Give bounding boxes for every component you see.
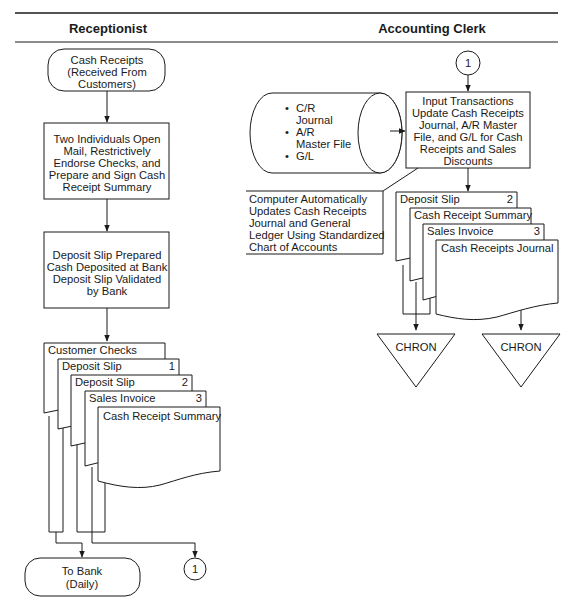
svg-text:Sales Invoice: Sales Invoice [89, 392, 156, 404]
end-terminator-to-bank: To Bank (Daily) [25, 558, 140, 596]
offpage-connector-out: 1 [184, 558, 206, 580]
svg-text:Deposit Slip: Deposit Slip [400, 193, 460, 205]
svg-text:Prepare and Sign Cash: Prepare and Sign Cash [49, 169, 165, 181]
process-deposit: Deposit Slip Prepared Cash Deposited at … [44, 232, 169, 308]
flowchart-canvas: Receptionist Accounting Clerk Cash Recei… [0, 0, 574, 609]
svg-text:Deposit Slip: Deposit Slip [75, 376, 135, 388]
svg-text:Master File: Master File [296, 138, 351, 150]
svg-text:1: 1 [192, 563, 198, 575]
lane-title-receptionist: Receptionist [69, 21, 148, 36]
svg-text:Computer Automatically: Computer Automatically [249, 193, 368, 205]
process-open-mail: Two Individuals Open Mail, Restrictively… [44, 123, 169, 199]
svg-text:Two Individuals Open: Two Individuals Open [54, 133, 161, 145]
magnetic-disk-files: • C/R Journal • A/R Master File • G/L [250, 93, 402, 173]
svg-text:Discounts: Discounts [443, 155, 493, 167]
bullet: • [285, 102, 289, 114]
svg-text:2: 2 [507, 193, 513, 205]
offpage-connector-in: 1 [456, 51, 480, 75]
svg-text:Journal and General: Journal and General [249, 217, 350, 229]
start-terminator: Cash Receipts (Received From Customers) [48, 49, 165, 91]
svg-text:CHRON: CHRON [395, 341, 436, 353]
chron-file-2: CHRON [482, 334, 560, 387]
svg-text:1: 1 [465, 57, 471, 69]
svg-text:File, and G/L for Cash: File, and G/L for Cash [413, 131, 522, 143]
accounting-document-stack: Deposit Slip 2 Cash Receipt Summary Sale… [396, 192, 558, 320]
svg-text:Customers): Customers) [78, 78, 136, 90]
document-cash-receipt-summary: Cash Receipt Summary [98, 407, 222, 488]
svg-text:A/R: A/R [296, 126, 315, 138]
receptionist-document-stack: Customer Checks Deposit Slip 1 Deposit S… [44, 343, 222, 488]
svg-text:Cash Receipt Summary: Cash Receipt Summary [103, 410, 222, 422]
svg-text:Deposit Slip Prepared: Deposit Slip Prepared [53, 249, 162, 261]
svg-text:Customer Checks: Customer Checks [48, 344, 137, 356]
document-cash-receipts-journal: Cash Receipts Journal [436, 240, 558, 320]
chron-file-1: CHRON [377, 334, 455, 387]
lane-title-accounting-clerk: Accounting Clerk [378, 21, 486, 36]
svg-text:CHRON: CHRON [500, 341, 541, 353]
svg-text:2: 2 [182, 376, 188, 388]
svg-text:3: 3 [196, 392, 202, 404]
svg-text:C/R: C/R [296, 102, 315, 114]
svg-text:Chart of Accounts: Chart of Accounts [249, 241, 338, 253]
svg-text:by Bank: by Bank [87, 285, 128, 297]
annotation-computer-updates: Computer Automatically Updates Cash Rece… [246, 168, 418, 254]
svg-text:1: 1 [169, 360, 175, 372]
svg-text:Mail, Restrictively: Mail, Restrictively [63, 145, 150, 157]
svg-text:Cash Receipts Journal: Cash Receipts Journal [441, 242, 554, 254]
bullet: • [285, 126, 289, 138]
svg-text:Receipt Summary: Receipt Summary [63, 181, 152, 193]
svg-text:Endorse Checks, and: Endorse Checks, and [54, 157, 161, 169]
svg-text:(Daily): (Daily) [66, 578, 99, 590]
svg-text:Sales Invoice: Sales Invoice [427, 225, 494, 237]
svg-text:Cash Receipt Summary: Cash Receipt Summary [414, 209, 533, 221]
bullet: • [285, 150, 289, 162]
svg-text:Deposit Slip Validated: Deposit Slip Validated [53, 273, 162, 285]
svg-text:Cash Deposited at Bank: Cash Deposited at Bank [47, 261, 168, 273]
svg-text:3: 3 [534, 225, 540, 237]
svg-text:G/L: G/L [296, 150, 314, 162]
svg-text:Cash Receipts: Cash Receipts [71, 54, 144, 66]
svg-text:Receipts and Sales: Receipts and Sales [420, 143, 517, 155]
svg-text:Journal: Journal [296, 114, 333, 126]
svg-text:Input Transactions: Input Transactions [422, 95, 514, 107]
svg-text:Journal, A/R Master: Journal, A/R Master [419, 119, 518, 131]
svg-text:To Bank: To Bank [62, 565, 103, 577]
svg-text:Update Cash Receipts: Update Cash Receipts [412, 107, 524, 119]
svg-text:Deposit Slip: Deposit Slip [62, 360, 122, 372]
svg-text:Updates Cash Receipts: Updates Cash Receipts [249, 205, 367, 217]
process-input-transactions: Input Transactions Update Cash Receipts … [406, 92, 530, 168]
arrow-to-bank [56, 532, 82, 557]
doc-tail-0 [49, 416, 63, 532]
svg-text:(Received From: (Received From [67, 66, 147, 78]
svg-text:Ledger Using Standardized: Ledger Using Standardized [249, 229, 385, 241]
